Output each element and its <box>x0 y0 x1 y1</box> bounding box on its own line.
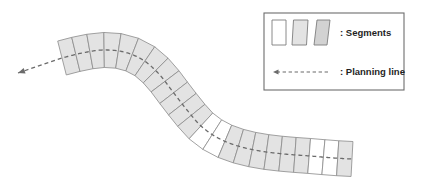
legend-label-segments: : Segments <box>340 27 391 38</box>
figure-root: : Segments : Planning line <box>0 0 421 193</box>
legend: : Segments : Planning line <box>264 13 405 90</box>
segment-swatch-white <box>272 20 286 45</box>
legend-label-planning-line: : Planning line <box>340 66 405 77</box>
planning-line-arrow-icon <box>18 68 26 74</box>
segment-swatch-light-gray <box>292 20 308 45</box>
legend-segment-swatches <box>272 20 330 45</box>
segment-swatch-dark-gray <box>314 20 330 45</box>
segmented-path-diagram: : Segments : Planning line <box>0 0 421 193</box>
